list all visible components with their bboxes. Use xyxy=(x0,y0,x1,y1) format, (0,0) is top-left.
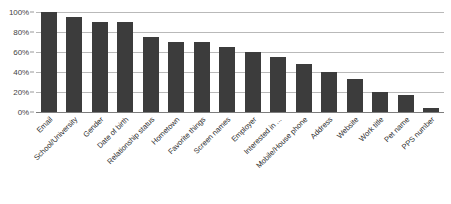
bar-slot xyxy=(87,12,113,112)
bar xyxy=(296,64,312,112)
y-tick-label: 80% xyxy=(13,28,29,37)
bar-series xyxy=(36,12,444,112)
x-label-slot: Favorite things xyxy=(189,112,215,204)
x-label-slot: PPS number xyxy=(419,112,445,204)
bar xyxy=(347,79,363,112)
bar-slot xyxy=(189,12,215,112)
bar xyxy=(270,57,286,112)
bar-slot xyxy=(393,12,419,112)
bar-slot xyxy=(113,12,139,112)
bar-slot xyxy=(317,12,343,112)
x-label-slot: Mobile/House phone xyxy=(291,112,317,204)
bar-slot xyxy=(240,12,266,112)
bar xyxy=(41,12,57,112)
x-tick-label: Email xyxy=(34,115,54,135)
x-label-slot: Website xyxy=(342,112,368,204)
y-tick-label: 60% xyxy=(13,48,29,57)
x-label-slot: Work title xyxy=(368,112,394,204)
y-tick-label: 40% xyxy=(13,68,29,77)
bar xyxy=(372,92,388,112)
bar-slot xyxy=(266,12,292,112)
bar xyxy=(66,17,82,112)
bar-slot xyxy=(36,12,62,112)
bar-slot xyxy=(62,12,88,112)
bar xyxy=(398,95,414,112)
bar xyxy=(194,42,210,112)
bar xyxy=(321,72,337,112)
bar xyxy=(117,22,133,112)
bar-slot xyxy=(164,12,190,112)
bar-slot xyxy=(342,12,368,112)
plot-area xyxy=(36,12,444,112)
bar-slot xyxy=(138,12,164,112)
x-label-slot: Hometown xyxy=(164,112,190,204)
x-label-slot: Screen names xyxy=(215,112,241,204)
x-label-slot: Address xyxy=(317,112,343,204)
y-axis: 100% 80% 60% 40% 20% 0% xyxy=(0,12,34,112)
x-label-slot: School/University xyxy=(62,112,88,204)
y-tick-label: 100% xyxy=(9,8,29,17)
x-label-slot: Relationship status xyxy=(138,112,164,204)
bar xyxy=(219,47,235,112)
bar-chart: 100% 80% 60% 40% 20% 0% EmailSchool/Univ… xyxy=(0,0,451,204)
x-axis-labels: EmailSchool/UniversityGenderDate of birt… xyxy=(36,112,444,204)
y-tick-label: 0% xyxy=(18,108,29,117)
bar xyxy=(245,52,261,112)
bar-slot xyxy=(215,12,241,112)
bar xyxy=(143,37,159,112)
bar-slot xyxy=(291,12,317,112)
bar xyxy=(168,42,184,112)
x-label-slot: Pet name xyxy=(393,112,419,204)
bar-slot xyxy=(419,12,445,112)
y-tick-label: 20% xyxy=(13,88,29,97)
bar-slot xyxy=(368,12,394,112)
bar xyxy=(92,22,108,112)
